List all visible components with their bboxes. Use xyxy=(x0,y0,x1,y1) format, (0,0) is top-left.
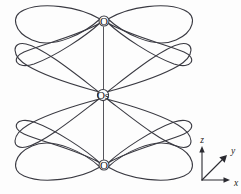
lobe-oxygen-bottom-lower-right xyxy=(108,143,192,180)
axis-arrowhead-z xyxy=(199,146,204,153)
axis-arrowhead-x xyxy=(224,177,231,182)
atom-osmium-center: Os xyxy=(97,89,109,101)
atom-oxygen-top: O xyxy=(99,15,109,27)
atom-label-oxygen-bottom: O xyxy=(100,159,108,171)
molecular-orbital-figure: O Os O z y x xyxy=(0,0,241,194)
lobe-osmium-upper-right xyxy=(107,44,191,92)
orbital-diagram-canvas: O Os O z y x xyxy=(0,0,241,194)
lobe-osmium-lower-left xyxy=(15,99,99,147)
axis-triad: z y x xyxy=(199,135,239,188)
axis-label-z: z xyxy=(199,135,204,145)
lobe-oxygen-bottom-upper-right xyxy=(108,120,192,163)
atom-label-oxygen-top: O xyxy=(100,15,108,27)
axis-line-y xyxy=(202,159,223,180)
lobe-oxygen-bottom-upper-left xyxy=(16,120,100,163)
lobe-oxygen-top-upper-left xyxy=(16,6,100,43)
atom-oxygen-bottom: O xyxy=(99,159,109,171)
lobe-oxygen-bottom-lower-left xyxy=(16,143,100,180)
atom-label-osmium: Os xyxy=(97,89,109,101)
lobe-oxygen-top-upper-right xyxy=(108,6,192,43)
lobe-osmium-lower-right xyxy=(107,99,191,147)
axis-label-y: y xyxy=(230,146,236,156)
axis-label-x: x xyxy=(233,178,239,188)
